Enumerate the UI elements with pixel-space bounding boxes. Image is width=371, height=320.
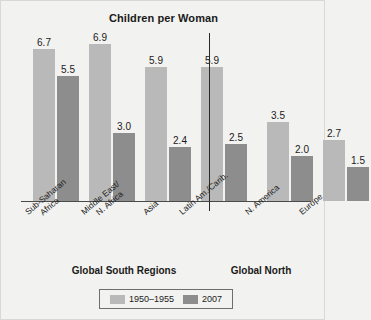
chart-title: Children per Woman — [1, 12, 326, 24]
bar-1950-1955-asia[interactable] — [145, 67, 167, 201]
bar-value-1950-1955-latin-america-caribbean: 5.9 — [199, 55, 225, 66]
bar-value-2007-north-america: 2.0 — [289, 144, 315, 155]
bar-2007-north-america[interactable] — [291, 156, 313, 201]
bar-group-asia: 5.9 2.4 — [145, 31, 191, 201]
bar-2007-asia[interactable] — [169, 147, 191, 201]
bar-2007-europe[interactable] — [347, 167, 369, 201]
bar-group-middle-east-n-africa: 6.9 3.0 — [89, 31, 135, 201]
bar-group-north-america: 3.5 2.0 — [267, 31, 313, 201]
bar-value-2007-europe: 1.5 — [345, 155, 371, 166]
plot-area: 6.7 5.5 6.9 3.0 5.9 2.4 5.9 2.5 — [23, 31, 308, 201]
legend-entry-2007[interactable]: 2007 — [183, 294, 222, 304]
bar-value-2007-middle-east-n-africa: 3.0 — [111, 121, 137, 132]
bar-group-sub-saharan-africa: 6.7 5.5 — [33, 31, 79, 201]
legend-label-1950-1955: 1950–1955 — [129, 294, 174, 304]
bar-value-1950-1955-north-america: 3.5 — [265, 110, 291, 121]
legend-label-2007: 2007 — [202, 294, 222, 304]
bar-1950-1955-middle-east-n-africa[interactable] — [89, 44, 111, 201]
bar-value-1950-1955-asia: 5.9 — [143, 55, 169, 66]
bar-value-2007-asia: 2.4 — [167, 135, 193, 146]
bar-value-1950-1955-sub-saharan-africa: 6.7 — [31, 37, 57, 48]
bar-group-europe: 2.7 1.5 — [323, 31, 369, 201]
bar-1950-1955-sub-saharan-africa[interactable] — [33, 49, 55, 201]
group-caption-global-north: Global North — [213, 265, 309, 276]
legend-swatch-1950-1955 — [110, 295, 125, 304]
bar-value-2007-latin-america-caribbean: 2.5 — [223, 132, 249, 143]
bar-value-1950-1955-middle-east-n-africa: 6.9 — [87, 32, 113, 43]
bar-value-2007-sub-saharan-africa: 5.5 — [55, 64, 81, 75]
chart-legend: 1950–1955 2007 — [99, 289, 233, 309]
bar-1950-1955-europe[interactable] — [323, 140, 345, 201]
legend-entry-1950-1955[interactable]: 1950–1955 — [110, 294, 174, 304]
bar-value-1950-1955-europe: 2.7 — [321, 128, 347, 139]
bar-2007-latin-america-caribbean[interactable] — [225, 144, 247, 201]
legend-swatch-2007 — [183, 295, 198, 304]
group-caption-global-south: Global South Regions — [49, 265, 199, 276]
